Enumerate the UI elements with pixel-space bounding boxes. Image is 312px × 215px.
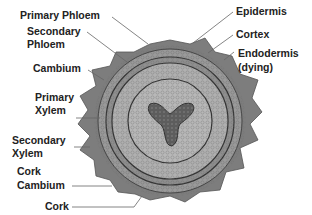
- label-epidermis: Epidermis: [236, 6, 287, 17]
- label-primary-phloem: Primary Phloem: [20, 10, 100, 21]
- label-secondary-phloem-line2: Phloem: [27, 39, 65, 50]
- root-cross-section-diagram: Primary Phloem Secondary Phloem Cambium …: [0, 0, 312, 215]
- label-secondary-xylem-line1: Secondary: [12, 135, 66, 146]
- label-cork: Cork: [45, 201, 69, 212]
- label-secondary-xylem-line2: Xylem: [12, 148, 43, 159]
- label-cork-cambium-line1: Cork: [17, 166, 41, 177]
- label-secondary-phloem-line1: Secondary: [27, 26, 81, 37]
- label-cambium: Cambium: [33, 63, 81, 74]
- label-cortex: Cortex: [236, 29, 269, 40]
- label-endodermis-line1: Endodermis: [238, 48, 299, 59]
- label-primary-xylem-line2: Xylem: [35, 105, 66, 116]
- label-primary-xylem-line1: Primary: [35, 92, 74, 103]
- label-cork-cambium-line2: Cambium: [17, 180, 65, 191]
- label-endodermis-line2: (dying): [238, 62, 273, 73]
